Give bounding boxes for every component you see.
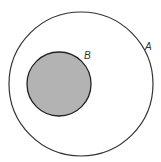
set-a-label: A — [144, 41, 152, 52]
set-b-label: B — [84, 50, 91, 61]
venn-diagram: A B — [0, 0, 161, 162]
set-b-circle — [27, 52, 91, 116]
